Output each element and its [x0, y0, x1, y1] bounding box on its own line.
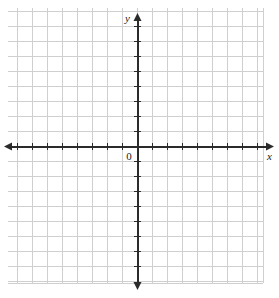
- y-axis-label: y: [124, 12, 130, 24]
- x-axis-label: x: [266, 150, 272, 162]
- coordinate-plane-svg: y x 0: [0, 0, 279, 298]
- origin-label: 0: [126, 150, 132, 162]
- figure-background: [0, 0, 279, 298]
- coordinate-plane-figure: y x 0: [0, 0, 279, 298]
